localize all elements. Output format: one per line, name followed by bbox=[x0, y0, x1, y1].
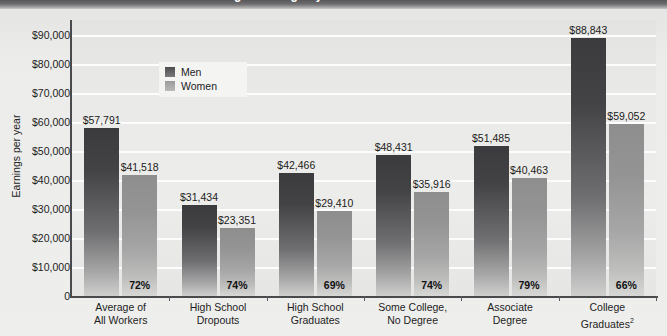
group-label-line1: Some College, bbox=[378, 301, 447, 314]
x-axis-group-label: Average ofAll Workers bbox=[94, 301, 147, 327]
x-axis-group-label: High SchoolGraduates bbox=[287, 301, 344, 327]
x-axis-group-label: Some College,No Degree bbox=[378, 301, 447, 327]
x-axis-group-label: AssociateDegree bbox=[487, 301, 533, 327]
group-label-line2: Degree bbox=[487, 314, 533, 327]
bar-value-men: $57,791 bbox=[83, 114, 121, 126]
gridline bbox=[72, 151, 656, 153]
group-label-line1: Associate bbox=[487, 301, 533, 314]
x-axis-tick bbox=[364, 296, 365, 301]
bar-women bbox=[122, 175, 157, 296]
bar-value-men: $48,431 bbox=[375, 141, 413, 153]
x-axis-group-label: High SchoolDropouts bbox=[190, 301, 247, 327]
chart-legend: Men Women bbox=[159, 62, 247, 97]
legend-swatch-men-icon bbox=[165, 67, 175, 77]
legend-swatch-women-icon bbox=[165, 81, 175, 91]
y-axis-tick-label: $90,000 bbox=[4, 29, 70, 41]
gridline bbox=[72, 267, 656, 269]
bar-value-women: $59,052 bbox=[607, 110, 645, 122]
gridline bbox=[72, 122, 656, 124]
bar-men bbox=[182, 205, 217, 296]
bar-percent-label: 69% bbox=[324, 279, 345, 291]
y-axis-title: Earnings per year bbox=[10, 96, 22, 216]
gridline bbox=[72, 238, 656, 240]
bar-men bbox=[474, 146, 509, 296]
bar-value-women: $23,351 bbox=[218, 214, 256, 226]
group-label-line1: Average of bbox=[94, 301, 147, 314]
bar-value-men: $51,485 bbox=[472, 132, 510, 144]
group-label-line2: All Workers bbox=[94, 314, 147, 327]
bar-value-men: $31,434 bbox=[180, 191, 218, 203]
bar-men bbox=[376, 155, 411, 296]
bar-value-women: $29,410 bbox=[315, 197, 353, 209]
bar-men bbox=[571, 38, 606, 296]
y-axis-tick-label: $20,000 bbox=[4, 232, 70, 244]
legend-item-women: Women bbox=[165, 79, 241, 93]
footnote-marker: 2 bbox=[630, 317, 634, 324]
legend-label-men: Men bbox=[181, 66, 201, 78]
bar-percent-label: 79% bbox=[518, 279, 539, 291]
group-label-line2: Graduates bbox=[287, 314, 344, 327]
x-axis-group-label: CollegeGraduates2 bbox=[581, 301, 634, 331]
x-axis-tick bbox=[656, 296, 657, 301]
bar-value-women: $40,463 bbox=[510, 164, 548, 176]
y-axis-tick-label: $80,000 bbox=[4, 58, 70, 70]
bar-percent-label: 66% bbox=[616, 279, 637, 291]
bar-value-men: $88,843 bbox=[569, 24, 607, 36]
x-axis-tick bbox=[267, 296, 268, 301]
bar-men bbox=[84, 128, 119, 296]
top-banner: Average Earnings by Education Level bbox=[0, 0, 667, 9]
bar-percent-label: 72% bbox=[129, 279, 150, 291]
bar-value-men: $42,466 bbox=[277, 159, 315, 171]
bar-value-women: $41,518 bbox=[121, 161, 159, 173]
top-banner-title: Average Earnings by Education Level bbox=[200, 0, 421, 2]
bar-women bbox=[609, 124, 644, 296]
y-axis-tick-label: 0 bbox=[4, 290, 70, 302]
group-label-line2: Dropouts bbox=[190, 314, 247, 327]
bar-value-women: $35,916 bbox=[413, 178, 451, 190]
gridline bbox=[72, 180, 656, 182]
legend-item-men: Men bbox=[165, 65, 241, 79]
bar-percent-label: 74% bbox=[226, 279, 247, 291]
legend-label-women: Women bbox=[181, 80, 217, 92]
group-label-line1: High School bbox=[287, 301, 344, 314]
y-axis-tick-label: $10,000 bbox=[4, 261, 70, 273]
group-label-line1: High School bbox=[190, 301, 247, 314]
x-axis-tick bbox=[169, 296, 170, 301]
group-label-line2: Graduates2 bbox=[581, 314, 634, 331]
group-label-line1: College bbox=[581, 301, 634, 314]
group-label-line2: No Degree bbox=[378, 314, 447, 327]
gridline bbox=[72, 209, 656, 211]
x-axis-tick bbox=[559, 296, 560, 301]
bar-men bbox=[279, 173, 314, 296]
y-axis-line bbox=[70, 20, 72, 298]
x-axis-tick bbox=[461, 296, 462, 301]
chart-figure: Average Earnings by Education Level $90,… bbox=[0, 0, 667, 336]
bar-percent-label: 74% bbox=[421, 279, 442, 291]
